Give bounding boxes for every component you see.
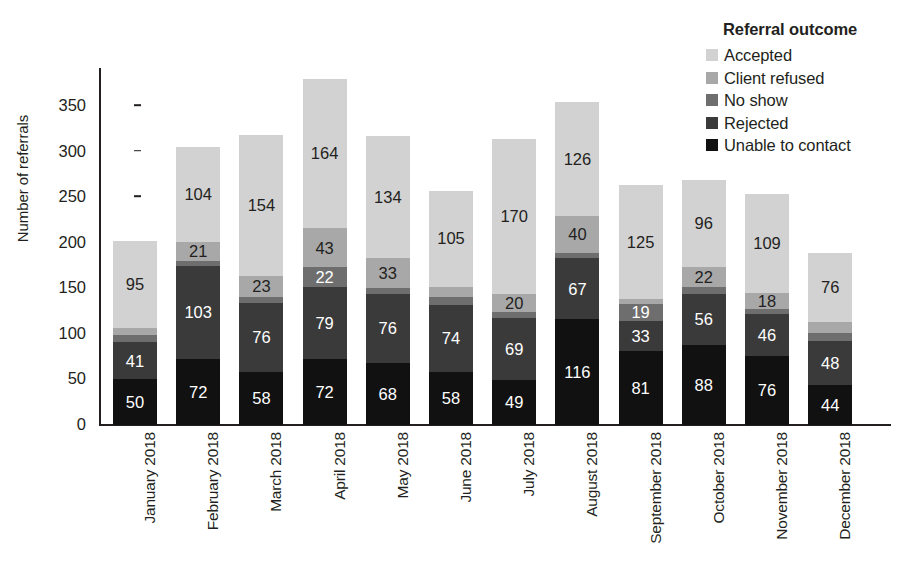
bar-segment[interactable]: 69 — [492, 318, 536, 381]
bar-segment[interactable]: 79 — [303, 287, 347, 359]
x-axis-tick-label: December 2018 — [837, 432, 853, 540]
legend-item[interactable]: Unable to contact — [706, 134, 906, 157]
bar-segment[interactable]: 22 — [682, 267, 726, 287]
bar-segment[interactable]: 21 — [176, 242, 220, 261]
bar-segment[interactable]: 19 — [619, 304, 663, 321]
bar-segment[interactable]: 134 — [366, 136, 410, 258]
bar-stack: 1057458 — [429, 191, 473, 425]
bar-segment[interactable]: 43 — [303, 228, 347, 267]
bar-segment[interactable]: 74 — [429, 305, 473, 372]
bar-segment-value-label: 58 — [442, 390, 460, 407]
bar-segment-value-label: 49 — [505, 394, 523, 411]
legend-swatch-icon — [706, 72, 718, 84]
bar-segment[interactable]: 56 — [682, 294, 726, 345]
bar-segment-value-label: 154 — [248, 197, 276, 214]
bar-segment-value-label: 41 — [126, 353, 144, 370]
bar-column[interactable]: 1264067116 — [555, 40, 599, 425]
y-axis-tick-label: 150 — [42, 279, 86, 296]
bar-column[interactable]: 125193381 — [619, 40, 663, 425]
bar-segment[interactable]: 104 — [176, 147, 220, 242]
bar-segment[interactable]: 49 — [492, 380, 536, 425]
legend-swatch-icon — [706, 117, 718, 129]
bar-segment[interactable] — [113, 335, 157, 342]
bar-segment[interactable]: 76 — [239, 303, 283, 372]
bar-segment-value-label: 46 — [758, 327, 776, 344]
bar-segment[interactable]: 164 — [303, 79, 347, 228]
bar-segment[interactable]: 170 — [492, 139, 536, 294]
bar-segment[interactable]: 50 — [113, 379, 157, 425]
bar-segment-value-label: 76 — [252, 329, 270, 346]
legend-item[interactable]: No show — [706, 89, 906, 112]
bar-segment[interactable]: 33 — [619, 321, 663, 351]
bar-segment[interactable]: 109 — [745, 194, 789, 293]
legend-item[interactable]: Accepted — [706, 44, 906, 67]
bar-segment[interactable]: 20 — [492, 294, 536, 312]
bar-segment-value-label: 79 — [315, 315, 333, 332]
x-axis-tick-label-text: January 2018 — [142, 432, 158, 524]
bar-segment[interactable]: 76 — [808, 253, 852, 322]
bar-segment[interactable]: 23 — [239, 276, 283, 297]
bar-segment[interactable]: 41 — [113, 342, 157, 379]
bar-segment[interactable]: 67 — [555, 258, 599, 319]
x-axis-tick-label: October 2018 — [711, 432, 727, 524]
x-axis-tick-label: November 2018 — [774, 432, 790, 540]
legend-item[interactable]: Client refused — [706, 67, 906, 90]
x-axis-tick-label: March 2018 — [268, 432, 284, 512]
x-axis-tick-label: January 2018 — [142, 432, 158, 524]
bar-segment-value-label: 109 — [753, 235, 781, 252]
bar-segment[interactable]: 48 — [808, 341, 852, 385]
stacked-bar-chart: Number of referrals 05010015020025030035… — [0, 0, 910, 577]
bar-segment[interactable]: 95 — [113, 241, 157, 328]
bar-segment[interactable]: 76 — [745, 356, 789, 425]
bar-column[interactable]: 954150 — [113, 40, 157, 425]
y-axis-tick-label: 100 — [42, 325, 86, 342]
bar-segment[interactable]: 125 — [619, 185, 663, 299]
bar-segment[interactable]: 103 — [176, 266, 220, 360]
x-axis-tick-label: September 2018 — [648, 432, 664, 544]
bar-segment[interactable] — [808, 333, 852, 341]
bar-column[interactable]: 154237658 — [239, 40, 283, 425]
bar-segment[interactable]: 72 — [176, 359, 220, 425]
bar-segment[interactable]: 44 — [808, 385, 852, 425]
legend-item[interactable]: Rejected — [706, 112, 906, 135]
bar-segment[interactable]: 33 — [366, 258, 410, 288]
bar-segment[interactable]: 88 — [682, 345, 726, 425]
bar-column[interactable]: 134337668 — [366, 40, 410, 425]
bar-segment[interactable]: 22 — [303, 267, 347, 287]
x-axis-tick-label-text: August 2018 — [584, 432, 600, 517]
x-axis-tick-label-text: April 2018 — [332, 432, 348, 500]
bar-segment-value-label: 33 — [631, 328, 649, 345]
y-axis-tick-label: 0 — [42, 416, 86, 433]
bar-column[interactable]: 170206949 — [492, 40, 536, 425]
bar-segment[interactable]: 105 — [429, 191, 473, 287]
bar-segment[interactable]: 81 — [619, 351, 663, 425]
bar-segment-value-label: 126 — [564, 151, 592, 168]
bar-segment[interactable]: 58 — [239, 372, 283, 425]
y-axis-tick-label: 200 — [42, 234, 86, 251]
bar-segment[interactable]: 72 — [303, 359, 347, 425]
bar-stack: 764844 — [808, 253, 852, 425]
bar-segment[interactable]: 96 — [682, 180, 726, 267]
bar-segment[interactable] — [429, 287, 473, 298]
bar-segment[interactable]: 116 — [555, 319, 599, 425]
x-axis-tick-label: May 2018 — [395, 432, 411, 498]
bar-segment[interactable]: 46 — [745, 314, 789, 356]
bar-segment[interactable]: 126 — [555, 102, 599, 217]
bar-segment-value-label: 33 — [379, 265, 397, 282]
bar-segment-value-label: 67 — [568, 281, 586, 298]
bar-segment[interactable] — [429, 297, 473, 304]
bar-column[interactable]: 1042110372 — [176, 40, 220, 425]
bar-segment[interactable]: 76 — [366, 294, 410, 363]
bar-segment[interactable]: 154 — [239, 135, 283, 275]
x-axis-tick-label-text: July 2018 — [521, 432, 537, 497]
bar-segment[interactable] — [113, 328, 157, 335]
bar-segment[interactable] — [808, 322, 852, 333]
bar-column[interactable]: 16443227972 — [303, 40, 347, 425]
bar-segment[interactable]: 68 — [366, 363, 410, 425]
bar-stack: 954150 — [113, 241, 157, 425]
bar-segment-value-label: 50 — [126, 394, 144, 411]
bar-segment[interactable]: 40 — [555, 216, 599, 252]
bar-segment[interactable]: 18 — [745, 293, 789, 309]
bar-segment[interactable]: 58 — [429, 372, 473, 425]
bar-column[interactable]: 1057458 — [429, 40, 473, 425]
